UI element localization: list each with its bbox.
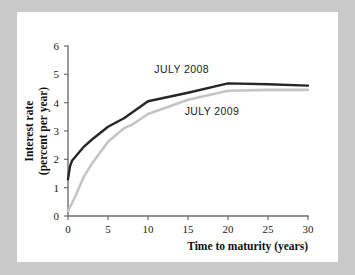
y-tick-label-1: 1 (54, 182, 60, 194)
yield-curve-chart: 0 1 2 3 4 5 6 0 5 10 15 20 25 30 Time to… (17, 12, 338, 262)
y-tick-label-4: 4 (54, 97, 60, 109)
y-tick-label-5: 5 (54, 68, 60, 80)
chart-card: 0 1 2 3 4 5 6 0 5 10 15 20 25 30 Time to… (17, 12, 338, 262)
x-tick-label-5: 5 (105, 223, 111, 235)
series-line-july-2008 (68, 83, 308, 179)
y-tick-label-2: 2 (54, 153, 60, 165)
x-tick-label-25: 25 (263, 223, 275, 235)
series-annotation-july-2009: JULY 2009 (185, 105, 240, 117)
y-tick-label-6: 6 (54, 40, 60, 52)
y-tick-label-3: 3 (54, 125, 60, 137)
x-tick-label-15: 15 (183, 223, 195, 235)
x-tick-label-20: 20 (223, 223, 235, 235)
x-axis-title: Time to maturity (years) (187, 240, 308, 253)
x-tick-label-10: 10 (143, 223, 155, 235)
series-annotation-july-2008: JULY 2008 (154, 63, 209, 75)
y-axis-title-line1: Interest rate (23, 101, 35, 162)
y-axis-title-line2: (percent per year) (37, 87, 50, 176)
x-tick-label-0: 0 (65, 223, 71, 235)
y-tick-label-0: 0 (54, 210, 60, 222)
x-tick-label-30: 30 (303, 223, 315, 235)
